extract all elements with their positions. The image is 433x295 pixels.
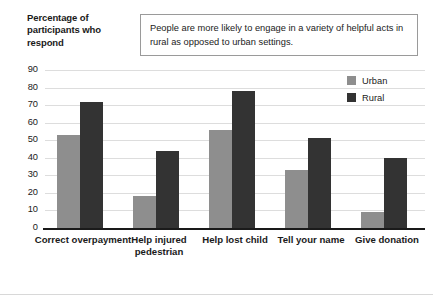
y-tick-label: 60 [16, 117, 38, 127]
y-tick-label: 90 [16, 64, 38, 74]
bar-group [273, 70, 349, 228]
y-tick-label: 40 [16, 152, 38, 162]
legend-swatch-icon [347, 76, 356, 85]
bar-rural [156, 151, 179, 228]
y-tick-label: 20 [16, 187, 38, 197]
bar-rural [308, 138, 331, 228]
y-tick-label: 80 [16, 82, 38, 92]
legend-label: Rural [362, 93, 384, 103]
legend-swatch-icon [347, 93, 356, 102]
x-axis-label: Give donation [337, 234, 433, 246]
y-tick-label: 30 [16, 169, 38, 179]
bar-urban [361, 212, 384, 228]
y-tick-label: 10 [16, 204, 38, 214]
y-axis-title: Percentage of participants who respond [27, 12, 127, 49]
legend-item-urban: Urban [347, 73, 387, 88]
annotation-text: People are more likely to engage in a va… [150, 22, 408, 49]
annotation-callout: People are more likely to engage in a va… [140, 14, 418, 56]
legend-label: Urban [362, 76, 387, 86]
bar-rural [232, 91, 255, 228]
bar-urban [133, 196, 156, 228]
bar-group [121, 70, 197, 228]
bar-chart-figure: Percentage of participants who respond P… [0, 0, 433, 295]
bar-group [45, 70, 121, 228]
bar-urban [209, 130, 232, 228]
legend-item-rural: Rural [347, 90, 387, 105]
y-tick-label: 70 [16, 99, 38, 109]
bar-rural [80, 102, 103, 228]
y-tick-label: 0 [16, 222, 38, 232]
y-tick-label: 50 [16, 134, 38, 144]
bar-group [197, 70, 273, 228]
x-axis-line [43, 228, 425, 230]
bar-urban [57, 135, 80, 228]
bar-rural [384, 158, 407, 228]
chart-legend: UrbanRural [347, 73, 387, 107]
bar-urban [285, 170, 308, 228]
